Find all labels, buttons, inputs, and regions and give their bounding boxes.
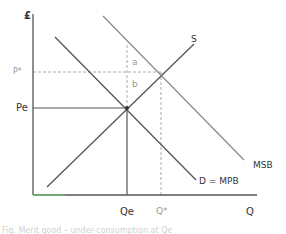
y-axis-label: £ [24, 11, 31, 21]
pe-label: Pe [16, 103, 28, 113]
msb-label: MSB [253, 161, 273, 170]
figure-caption: Fig. Merit good – under-consumption at Q… [2, 226, 172, 234]
msb-curve [103, 16, 244, 160]
demand-label: D = MPB [199, 177, 239, 186]
welfare-diagram: £ P* Pe a b S MSB D = MPB Qe Q* Q Fig. M… [0, 0, 286, 234]
area-b-label: b [132, 80, 138, 89]
area-a-label: a [132, 58, 138, 67]
supply-label: S [191, 35, 197, 44]
supply-curve [47, 44, 194, 187]
q-star-label: Q* [156, 207, 168, 216]
p-star-label: P* [13, 68, 22, 76]
equilibrium-point [125, 106, 129, 110]
x-axis-label: Q [246, 207, 254, 217]
qe-label: Qe [120, 207, 134, 217]
diagram-canvas [0, 0, 286, 234]
